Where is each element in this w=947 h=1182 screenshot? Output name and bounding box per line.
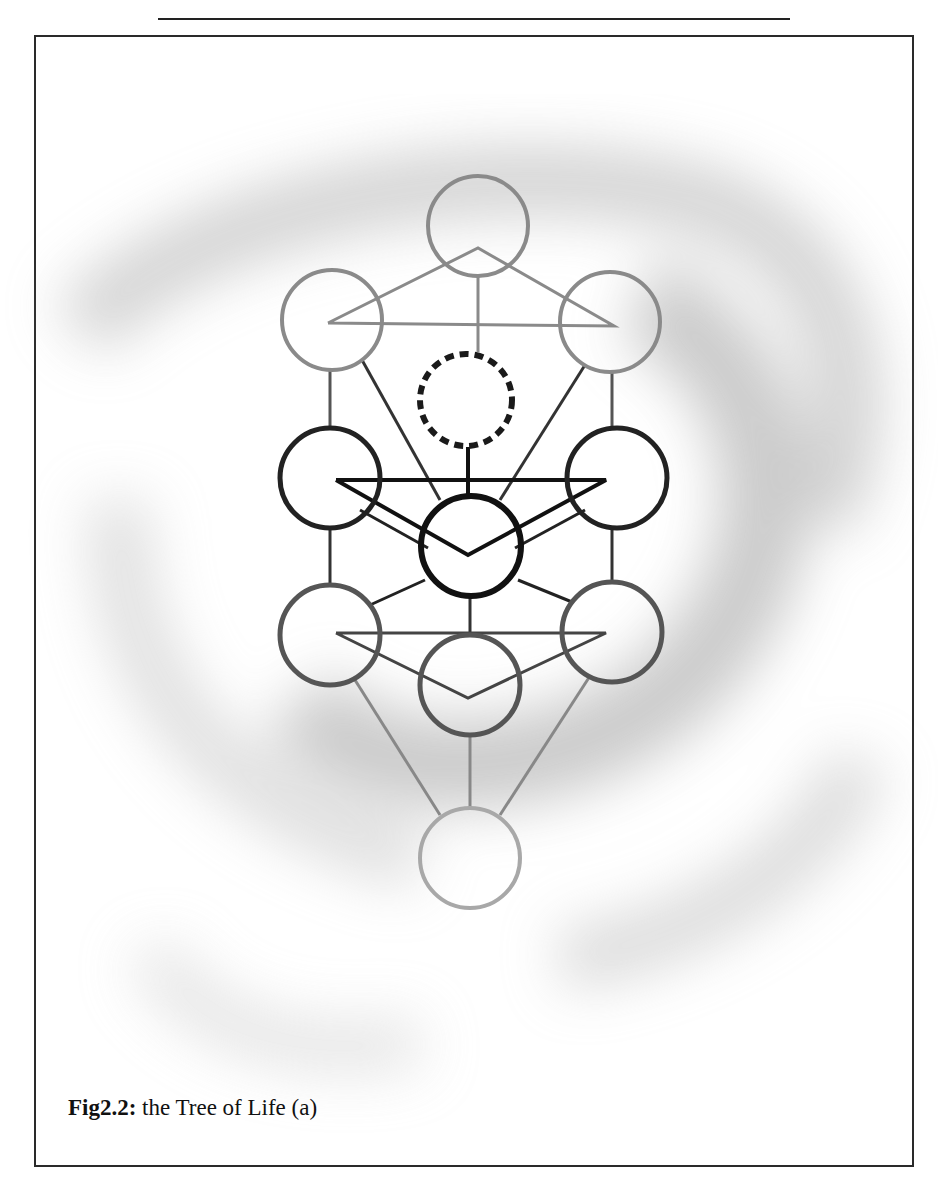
sephirah-tiferet	[421, 496, 521, 596]
sephirah-malkuth	[420, 808, 520, 908]
figure-caption-text: the Tree of Life (a)	[136, 1095, 317, 1120]
path-chesed-tiferet-low	[360, 510, 428, 548]
figure-caption: Fig2.2: the Tree of Life (a)	[68, 1095, 317, 1121]
tree-of-life-diagram	[0, 0, 947, 1182]
figure-label: Fig2.2:	[68, 1095, 136, 1120]
sephirah-netzach	[280, 585, 380, 685]
path-geburah-tiferet-low	[515, 510, 585, 548]
path-tiferet-hod	[518, 580, 572, 602]
path-tiferet-netzach	[370, 580, 425, 605]
sephirah-daat	[420, 354, 512, 446]
